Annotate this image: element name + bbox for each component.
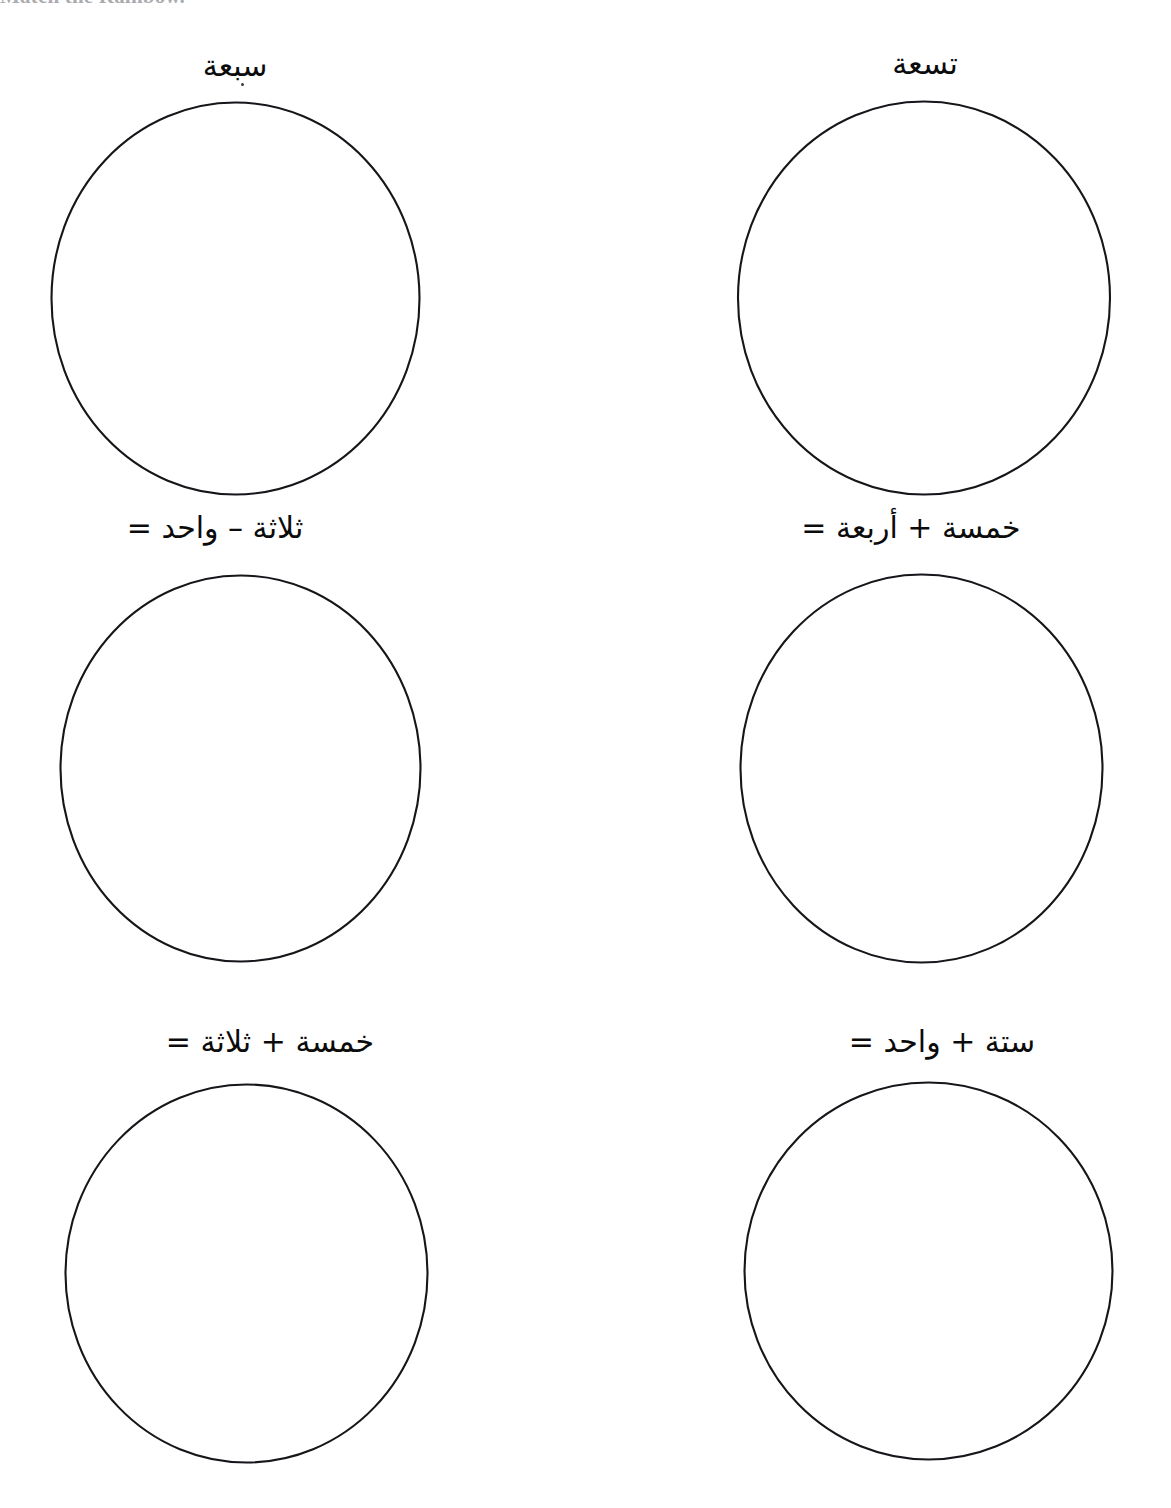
cut-off-header-text: Match the Rainbow. bbox=[0, 0, 600, 8]
problem-1-label: سبعة bbox=[145, 47, 325, 85]
problem-6-label: ستة + واحد = bbox=[825, 1022, 1059, 1062]
problem-6-answer-circle[interactable] bbox=[742, 1080, 1115, 1462]
problem-4-label: خمسة + أربعة = bbox=[788, 508, 1034, 548]
problem-3-label: ثلاثة – واحد = bbox=[95, 508, 335, 548]
problem-2-label: تسعة bbox=[835, 45, 1015, 83]
problem-2-answer-circle[interactable] bbox=[736, 99, 1112, 497]
problem-4-answer-circle[interactable] bbox=[738, 572, 1105, 965]
problem-1-answer-circle[interactable] bbox=[49, 100, 422, 497]
problem-5-answer-circle[interactable] bbox=[63, 1082, 430, 1465]
worksheet-page: Match the Rainbow. سبعة تسعة ثلاثة – واح… bbox=[0, 0, 1171, 1508]
scan-speck bbox=[241, 83, 244, 86]
problem-5-label: خمسة + ثلاثة = bbox=[148, 1022, 392, 1062]
problem-3-answer-circle[interactable] bbox=[58, 573, 423, 964]
